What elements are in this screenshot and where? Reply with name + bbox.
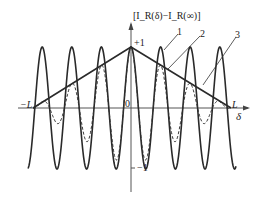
curve-3-damped <box>33 47 231 160</box>
curve-label-3: 3 <box>235 30 240 40</box>
minus-one-label: −1 <box>137 163 148 173</box>
interference-diagram <box>0 0 261 205</box>
left-limit-label: −L <box>20 100 32 110</box>
curve-label-1: 1 <box>177 27 182 37</box>
x-axis-arrow-icon <box>243 106 250 111</box>
curve-label-2: 2 <box>200 29 205 39</box>
plus-one-label: +1 <box>134 38 145 48</box>
y-axis-arrow-icon <box>129 22 134 30</box>
leader-line-3 <box>203 37 236 85</box>
leader-line-1 <box>164 34 178 50</box>
right-limit-label: L <box>232 100 238 110</box>
leader-line-2 <box>168 36 200 69</box>
x-axis-label: δ <box>236 111 241 122</box>
curve-2-envelope <box>33 47 231 108</box>
origin-label: 0 <box>125 99 130 109</box>
y-axis-label: [I_R(δ)−I_R(∞)] <box>133 11 200 21</box>
